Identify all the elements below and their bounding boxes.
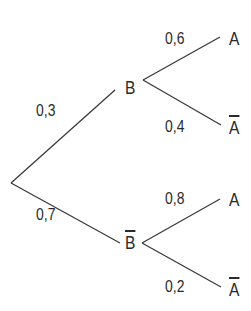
leaf-A-2: A	[229, 190, 239, 209]
prob-notB: 0,7	[36, 206, 55, 223]
node-B: B	[125, 78, 135, 97]
leaf-not-A-1: A	[229, 118, 239, 137]
prob-A-given-notB: 0,8	[165, 190, 184, 207]
leaf-not-A-2: A	[229, 280, 239, 299]
prob-notA-given-B: 0,4	[165, 118, 184, 135]
prob-notA-given-notB: 0,2	[165, 278, 184, 295]
edge-root-to-B	[11, 90, 115, 183]
edge-root-to-notB	[11, 183, 120, 243]
leaf-A-1: A	[229, 29, 239, 48]
prob-B: 0,3	[36, 102, 55, 119]
tree-edges	[0, 0, 251, 311]
prob-A-given-B: 0,6	[165, 30, 184, 47]
node-not-B: B	[125, 233, 135, 252]
